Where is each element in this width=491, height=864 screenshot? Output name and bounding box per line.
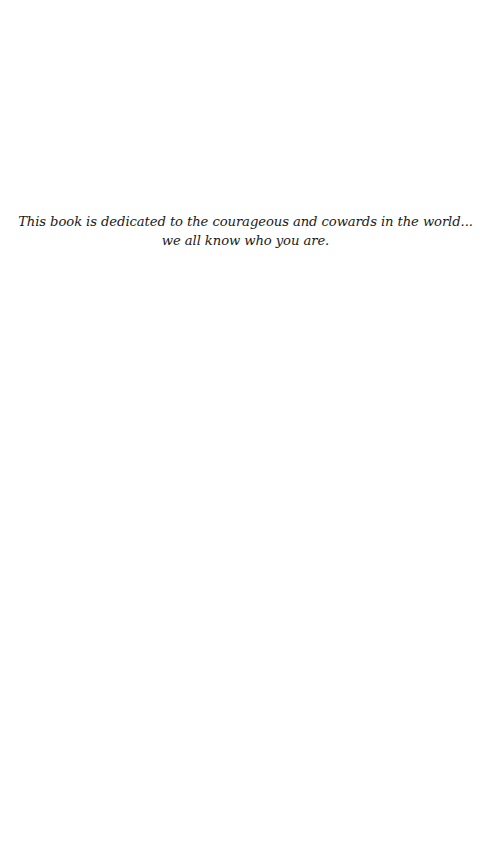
dedication-line-2: we all know who you are. [0, 231, 491, 250]
dedication-line-1: This book is dedicated to the courageous… [0, 212, 491, 231]
book-page: This book is dedicated to the courageous… [0, 0, 491, 864]
dedication-text: This book is dedicated to the courageous… [0, 212, 491, 250]
